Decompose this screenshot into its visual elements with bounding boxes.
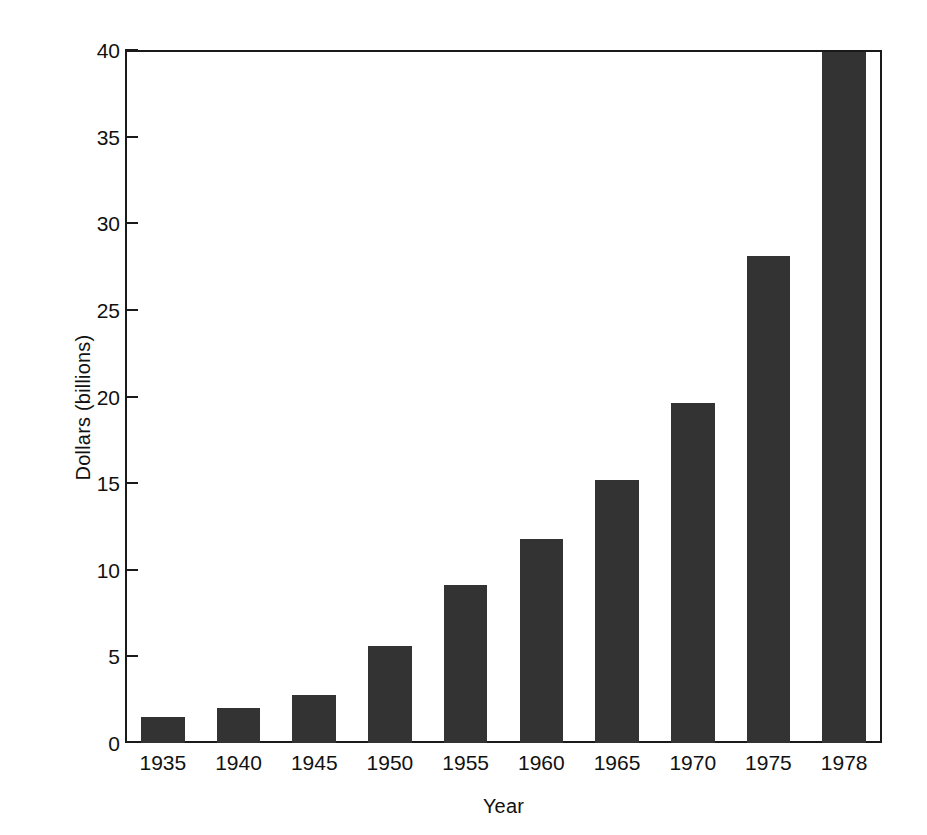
x-axis-title: Year bbox=[125, 795, 882, 818]
bar[interactable] bbox=[217, 708, 261, 743]
y-axis-tick-label: 5 bbox=[10, 646, 120, 667]
bar[interactable] bbox=[444, 585, 488, 743]
bar[interactable] bbox=[141, 717, 185, 743]
x-axis-tick-layer: 1935194019451950195519601965197019751978 bbox=[125, 752, 882, 786]
y-axis-tick-label: 40 bbox=[10, 40, 120, 61]
bars-layer bbox=[125, 50, 882, 743]
x-axis-tick-label: 1945 bbox=[291, 752, 338, 773]
bar[interactable] bbox=[292, 695, 336, 744]
bar[interactable] bbox=[747, 256, 791, 743]
x-axis-tick-label: 1970 bbox=[669, 752, 716, 773]
x-axis-tick-label: 1960 bbox=[518, 752, 565, 773]
y-axis-tick-label: 10 bbox=[10, 559, 120, 580]
y-axis-tick-label: 15 bbox=[10, 473, 120, 494]
bar[interactable] bbox=[822, 52, 866, 743]
bar[interactable] bbox=[671, 403, 715, 743]
y-axis-tick-label: 0 bbox=[10, 733, 120, 754]
x-axis-tick-label: 1955 bbox=[442, 752, 489, 773]
x-axis-tick-label: 1965 bbox=[594, 752, 641, 773]
y-axis-tick-label: 30 bbox=[10, 213, 120, 234]
y-axis-tick-label: 35 bbox=[10, 126, 120, 147]
y-axis-tick-label: 20 bbox=[10, 386, 120, 407]
x-axis-tick-label: 1975 bbox=[745, 752, 792, 773]
x-axis-tick-label: 1978 bbox=[821, 752, 868, 773]
x-axis-tick-label: 1940 bbox=[215, 752, 262, 773]
y-axis-tick-label: 25 bbox=[10, 299, 120, 320]
x-axis-tick-label: 1950 bbox=[367, 752, 414, 773]
bar[interactable] bbox=[595, 480, 639, 743]
bar[interactable] bbox=[368, 646, 412, 743]
bar-chart-figure: Dollars (billions) 0510152025303540 1935… bbox=[0, 0, 927, 835]
x-axis-tick-label: 1935 bbox=[139, 752, 186, 773]
bar[interactable] bbox=[520, 539, 564, 743]
